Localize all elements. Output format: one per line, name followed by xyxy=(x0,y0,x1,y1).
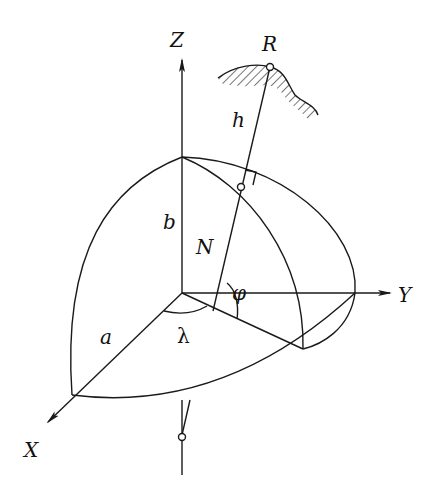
ellipsoid-left-contour xyxy=(71,157,182,395)
latitude-label: φ xyxy=(232,283,246,303)
longitude-label: λ xyxy=(177,326,190,346)
height-label: h xyxy=(232,110,245,130)
ellipsoid-diagram: Z R Y X h N b a φ λ xyxy=(0,0,438,490)
diagram-canvas xyxy=(0,0,438,490)
semi-minor-label: b xyxy=(163,212,176,232)
longitude-angle-arc xyxy=(164,306,207,313)
z-axis-label: Z xyxy=(170,30,184,50)
axis-intersection-point xyxy=(179,434,186,441)
point-r-label: R xyxy=(262,34,277,54)
semi-major-label: a xyxy=(100,327,112,347)
x-axis xyxy=(48,293,182,422)
normal-lower xyxy=(182,400,190,435)
point-r xyxy=(267,64,274,71)
x-axis-label: X xyxy=(24,440,38,460)
y-axis-label: Y xyxy=(398,285,411,305)
surface-point xyxy=(238,184,245,191)
right-angle-marker xyxy=(245,170,256,185)
normal-label: N xyxy=(196,237,214,257)
